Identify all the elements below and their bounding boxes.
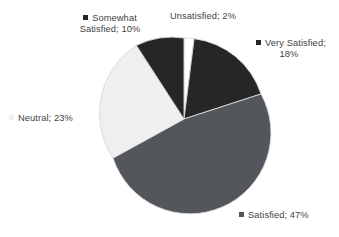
data-label-very-satisfied-line2: 18%	[256, 49, 336, 60]
marker-satisfied	[239, 212, 244, 217]
data-label-very-satisfied-line1: Very Satisfied;	[265, 38, 326, 48]
data-label-satisfied-text: Satisfied; 47%	[248, 210, 309, 220]
data-label-somewhat-satisfied-line1: Somewhat	[92, 13, 137, 23]
data-label-unsatisfied: Unsatisfied; 2%	[170, 11, 236, 22]
data-label-neutral-text: Neutral; 23%	[18, 113, 73, 123]
data-label-unsatisfied-text: Unsatisfied; 2%	[170, 11, 236, 21]
data-label-satisfied: Satisfied; 47%	[239, 210, 309, 221]
marker-very-satisfied	[256, 40, 261, 45]
marker-neutral	[9, 115, 14, 120]
data-label-very-satisfied: Very Satisfied; 18%	[256, 38, 336, 61]
data-label-somewhat-satisfied-line2: Satisfied; 10%	[62, 24, 158, 35]
data-label-somewhat-satisfied: Somewhat Satisfied; 10%	[62, 13, 158, 36]
pie-chart: Somewhat Satisfied; 10% Unsatisfied; 2% …	[0, 0, 339, 237]
data-label-neutral: Neutral; 23%	[9, 113, 73, 124]
marker-somewhat-satisfied	[83, 15, 88, 20]
